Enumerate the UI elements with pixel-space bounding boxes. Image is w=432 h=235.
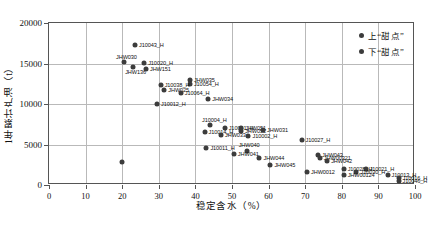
data-point-label: JHW041 xyxy=(238,151,259,157)
chart-legend: 上“甜点”下“甜点” xyxy=(356,27,407,59)
y-axis-tick-label: 10000 xyxy=(20,99,43,109)
legend-marker-icon xyxy=(359,49,364,54)
data-point xyxy=(246,133,251,138)
y-axis-title: 1年累计产油（t） xyxy=(2,22,16,184)
y-axis-tick xyxy=(44,104,49,105)
x-axis-tick xyxy=(378,185,379,189)
data-point xyxy=(325,159,330,164)
y-axis-tick-label: 0 xyxy=(38,180,43,190)
data-point xyxy=(122,60,127,65)
data-point xyxy=(202,129,207,134)
data-point xyxy=(305,170,310,175)
data-point xyxy=(208,123,213,128)
gridline-vertical xyxy=(86,23,87,183)
data-point xyxy=(317,155,322,160)
data-point xyxy=(178,91,183,96)
data-point-label: JHW045 xyxy=(274,162,295,168)
data-point xyxy=(143,66,148,71)
data-point-label: JHW040 xyxy=(239,142,260,148)
legend-label: 上“甜点” xyxy=(368,29,404,41)
x-axis-tick xyxy=(195,185,196,189)
y-axis-tick-label: 15000 xyxy=(20,59,43,69)
data-point xyxy=(396,178,401,183)
legend-label: 下“甜点” xyxy=(368,45,404,57)
data-point-label: J10054_H xyxy=(194,81,219,87)
data-point-label: JHW030 xyxy=(116,54,137,60)
data-point-label: J10012_H xyxy=(161,101,186,107)
data-point-label: J10064_H xyxy=(185,90,210,96)
data-point-label: J10004_H xyxy=(202,117,227,123)
plot-area: 0102030405060708090100050001000015000200… xyxy=(48,22,414,184)
legend-item[interactable]: 下“甜点” xyxy=(359,45,404,57)
data-point xyxy=(206,97,211,102)
data-point-label: JHW044 xyxy=(263,155,284,161)
gridline-horizontal xyxy=(49,104,413,105)
data-point-label: JHW033 xyxy=(225,132,246,138)
y-axis-tick xyxy=(44,64,49,65)
x-axis-tick xyxy=(342,185,343,189)
data-point xyxy=(133,42,138,47)
gridline-horizontal xyxy=(49,64,413,65)
y-axis-tick-label: 5000 xyxy=(24,140,42,150)
legend-marker-icon xyxy=(359,33,364,38)
x-axis-tick xyxy=(415,185,416,189)
data-point xyxy=(257,156,262,161)
data-point-label: J10002_H xyxy=(252,133,277,139)
data-point xyxy=(120,159,125,164)
data-point xyxy=(142,61,147,66)
data-point xyxy=(299,137,304,142)
data-point xyxy=(341,173,346,178)
data-point-label: J10046_H xyxy=(403,178,428,184)
x-axis-title: 稳定含水（%） xyxy=(48,198,414,212)
y-axis-tick-label: 20000 xyxy=(20,18,43,28)
data-point-label: J10043_H xyxy=(139,42,164,48)
y-axis-tick xyxy=(44,185,49,186)
data-point xyxy=(162,88,167,93)
gridline-vertical xyxy=(305,23,306,183)
data-point-label: JHW042 xyxy=(331,158,352,164)
data-point-label: JHW0012 xyxy=(311,169,335,175)
x-axis-tick xyxy=(269,185,270,189)
data-point xyxy=(341,166,346,171)
y-axis-tick xyxy=(44,23,49,24)
x-axis-tick xyxy=(49,185,50,189)
data-point xyxy=(385,173,390,178)
y-axis-tick xyxy=(44,145,49,146)
data-point xyxy=(204,145,209,150)
data-point xyxy=(154,102,159,107)
x-axis-tick xyxy=(159,185,160,189)
gridline-vertical xyxy=(232,23,233,183)
x-axis-tick xyxy=(122,185,123,189)
data-point xyxy=(268,163,273,168)
legend-item[interactable]: 上“甜点” xyxy=(359,29,404,41)
x-axis-tick xyxy=(232,185,233,189)
data-point-label: JHW00124 xyxy=(348,172,375,178)
data-point-label: J10011_H xyxy=(210,145,234,151)
data-point-label: J10027_H xyxy=(306,137,331,143)
data-point-label: JHW034 xyxy=(212,96,233,102)
data-point-label: JHW136 xyxy=(125,69,146,75)
chart-container: 1年累计产油（t） 010203040506070809010005000100… xyxy=(0,0,432,235)
x-axis-tick xyxy=(305,185,306,189)
gridline-vertical xyxy=(195,23,196,183)
x-axis-tick xyxy=(86,185,87,189)
data-point-label: JHW151 xyxy=(150,66,171,72)
data-point xyxy=(231,152,236,157)
data-point xyxy=(219,133,224,138)
